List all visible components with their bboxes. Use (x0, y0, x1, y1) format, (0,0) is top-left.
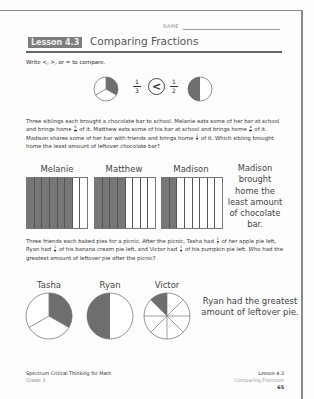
fraction-matthew: 48 (249, 126, 251, 133)
lesson-title: Comparing Fractions (90, 35, 198, 47)
book-title: Spectrum Critical Thinking for Math (26, 370, 111, 377)
numerator: 1 (172, 78, 176, 85)
bar-segment (126, 178, 134, 228)
fraction-madison: 28 (196, 135, 198, 142)
numerator: 1 (135, 78, 139, 85)
bar-label-madison: Madison (160, 164, 222, 174)
bar-segment (58, 178, 66, 228)
denominator: 8 (180, 250, 182, 253)
bar-segment (148, 178, 155, 228)
bar-segment (103, 178, 111, 228)
page-number: 65 (234, 384, 284, 391)
bar-segment (177, 178, 185, 228)
bar-segment (42, 178, 50, 228)
bar-madison (161, 177, 223, 229)
bar-melanie (26, 177, 88, 229)
page-border-top (0, 10, 302, 11)
bar-segment (27, 178, 35, 228)
bar-segment (118, 178, 126, 228)
bar-segment (162, 178, 170, 228)
lesson-badge: Lesson 4.3 (28, 37, 82, 48)
footer-left: Spectrum Critical Thinking for Math Grad… (26, 370, 111, 384)
text: of his banana cream pie left, and Victor… (57, 246, 179, 252)
bar-segment (73, 178, 81, 228)
page-border-right (301, 10, 303, 399)
bar-matthew (94, 177, 156, 229)
fraction-ryan: 12 (54, 246, 56, 253)
name-label: NAME (163, 23, 179, 29)
denominator: 2 (172, 87, 176, 94)
name-field-line (183, 29, 280, 30)
problem1-instruction: Write <, >, or = to compare. (26, 59, 105, 65)
bar-segment (95, 178, 103, 228)
pie-label-victor: Victor (142, 280, 192, 290)
footer-topic: Comparing Fractions (234, 377, 284, 384)
pie-one-half-icon (187, 76, 213, 102)
bar-segment (110, 178, 118, 228)
fraction-tasha: 13 (217, 238, 219, 245)
bar-segment (200, 178, 208, 228)
grade-label: Grade 3 (26, 377, 111, 384)
bar-segment (65, 178, 73, 228)
footer-right: Lesson 4.3 Comparing Fractions 65 (234, 370, 284, 391)
pie-ryan-icon (86, 292, 134, 340)
text: Three friends each baked pies for a picn… (26, 238, 216, 244)
bar-label-matthew: Matthew (93, 164, 155, 174)
bar-segment (35, 178, 43, 228)
denominator: 8 (249, 130, 251, 133)
bar-segment (215, 178, 222, 228)
fraction-melanie: 68 (74, 126, 76, 133)
denominator: 3 (135, 87, 139, 94)
denominator: 2 (54, 250, 56, 253)
bar-segment (185, 178, 193, 228)
denominator: 8 (196, 138, 198, 141)
footer-lesson: Lesson 4.3 (234, 370, 284, 377)
pie-one-third-icon (93, 76, 119, 102)
header-rule (26, 51, 282, 53)
denominator: 3 (217, 242, 219, 245)
fraction-victor: 18 (180, 246, 182, 253)
bar-segment (50, 178, 58, 228)
problem3-answer: Ryan had the greatest amount of leftover… (200, 296, 300, 318)
fraction-right: 1 2 (170, 79, 178, 94)
text: of it. Matthew eats some of his bar at s… (78, 126, 249, 132)
pie-label-ryan: Ryan (85, 280, 135, 290)
comparison-answer: < (148, 78, 165, 95)
bar-segment (193, 178, 201, 228)
pie-tasha-icon (25, 292, 73, 340)
pie-label-tasha: Tasha (24, 280, 74, 290)
denominator: 8 (74, 130, 76, 133)
problem2-answer: Madison brought home the least amount of… (226, 163, 284, 231)
problem2-text: Three siblings each brought a chocolate … (26, 117, 284, 150)
bar-segment (141, 178, 149, 228)
bar-segment (133, 178, 141, 228)
fraction-left: 1 3 (133, 79, 141, 94)
bar-segment (170, 178, 178, 228)
pie-victor-icon (143, 292, 191, 340)
bar-segment (208, 178, 216, 228)
problem3-text: Three friends each baked pies for a picn… (26, 237, 284, 262)
bar-segment (80, 178, 87, 228)
bar-label-melanie: Melanie (26, 164, 88, 174)
